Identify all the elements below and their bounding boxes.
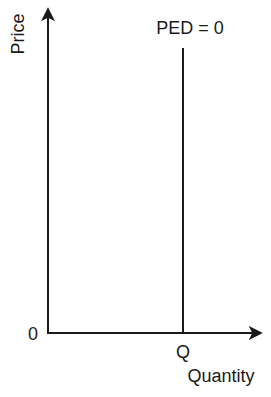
origin-label: 0 (28, 324, 38, 344)
x-axis-label: Quantity (187, 366, 254, 386)
y-axis-label: Price (8, 13, 28, 54)
ped-annotation: PED = 0 (156, 18, 224, 38)
quantity-marker-label: Q (176, 342, 190, 362)
elasticity-diagram: Price PED = 0 0 Q Quantity (0, 0, 271, 397)
